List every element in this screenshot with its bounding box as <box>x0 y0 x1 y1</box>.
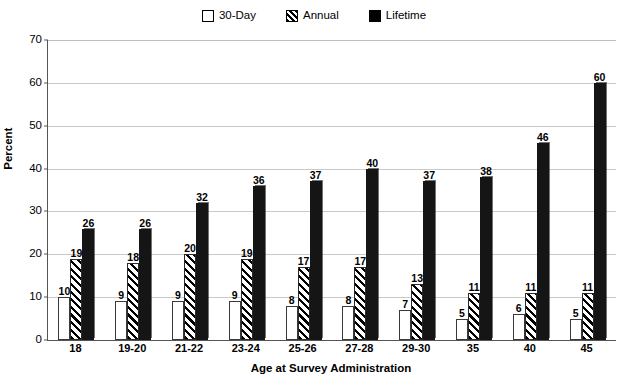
bar-annual-18[interactable]: 19 <box>70 259 82 340</box>
bar-slot: 9 <box>115 40 127 340</box>
bar-annual-19-20[interactable]: 18 <box>127 263 139 340</box>
bar-annual-29-30[interactable]: 13 <box>411 284 423 340</box>
bar-lifetime-23-24[interactable]: 36 <box>253 186 265 340</box>
bar-slot: 9 <box>172 40 184 340</box>
bar-30-day-23-24[interactable]: 9 <box>229 301 241 340</box>
bar-value-label: 11 <box>468 282 479 293</box>
legend-swatch-30-day-icon <box>202 10 214 22</box>
bar-slot: 37 <box>423 40 435 340</box>
bar-slot: 13 <box>411 40 423 340</box>
bar-slot: 18 <box>127 40 139 340</box>
bar-value-label: 13 <box>411 273 423 284</box>
bar-lifetime-35[interactable]: 38 <box>480 177 492 340</box>
bar-annual-27-28[interactable]: 17 <box>354 267 366 340</box>
legend-swatch-annual-icon <box>286 10 298 22</box>
bar-slot: 11 <box>582 40 594 340</box>
x-axis-tick-29-30: 29-30 <box>388 343 445 354</box>
bar-slot: 26 <box>139 40 151 340</box>
bar-slot: 26 <box>82 40 94 340</box>
bar-value-label: 19 <box>71 248 83 259</box>
legend-item-30-day: 30-Day <box>202 10 256 22</box>
legend-item-lifetime: Lifetime <box>369 10 426 22</box>
bar-slot: 5 <box>570 40 582 340</box>
bar-value-label: 37 <box>310 170 322 181</box>
bar-group-19-20: 91826 <box>105 40 162 340</box>
bar-value-label: 8 <box>289 295 295 306</box>
bar-value-label: 5 <box>573 308 579 319</box>
bar-value-label: 36 <box>253 175 265 186</box>
bar-group-27-28: 81740 <box>332 40 389 340</box>
bar-30-day-45[interactable]: 5 <box>570 319 582 340</box>
bar-value-label: 7 <box>402 299 408 310</box>
bar-value-label: 6 <box>516 303 522 314</box>
bar-value-label: 40 <box>367 158 379 169</box>
bar-annual-40[interactable]: 11 <box>525 293 537 340</box>
bar-value-label: 37 <box>423 170 435 181</box>
bar-slot: 40 <box>366 40 378 340</box>
legend-swatch-lifetime-icon <box>369 10 381 22</box>
bar-value-label: 46 <box>537 132 549 143</box>
x-axis-tick-27-28: 27-28 <box>331 343 388 354</box>
bar-slot: 37 <box>310 40 322 340</box>
x-axis-tick-23-24: 23-24 <box>217 343 274 354</box>
chart-legend: 30-Day Annual Lifetime <box>0 5 628 27</box>
bar-30-day-40[interactable]: 6 <box>513 314 525 340</box>
bar-30-day-29-30[interactable]: 7 <box>399 310 411 340</box>
bar-value-label: 60 <box>594 72 606 83</box>
x-axis-tick-45: 45 <box>558 343 615 354</box>
bar-slot: 11 <box>525 40 537 340</box>
bar-30-day-27-28[interactable]: 8 <box>342 306 354 340</box>
bar-value-label: 19 <box>241 248 253 259</box>
bar-lifetime-21-22[interactable]: 32 <box>196 203 208 340</box>
bar-value-label: 26 <box>83 218 95 229</box>
bar-value-label: 9 <box>118 290 124 301</box>
bar-value-label: 9 <box>175 290 181 301</box>
bar-slot: 60 <box>594 40 606 340</box>
bar-lifetime-25-26[interactable]: 37 <box>310 181 322 340</box>
bar-annual-23-24[interactable]: 19 <box>241 259 253 340</box>
bar-slot: 8 <box>342 40 354 340</box>
x-axis-tick-40: 40 <box>501 343 558 354</box>
legend-label-30-day: 30-Day <box>219 10 256 22</box>
x-axis-tick-18: 18 <box>47 343 104 354</box>
bar-slot: 7 <box>399 40 411 340</box>
bar-group-25-26: 81737 <box>275 40 332 340</box>
bar-30-day-18[interactable]: 10 <box>58 297 70 340</box>
bar-slot: 5 <box>456 40 468 340</box>
bar-slot: 19 <box>241 40 253 340</box>
bar-annual-25-26[interactable]: 17 <box>298 267 310 340</box>
bar-lifetime-45[interactable]: 60 <box>594 83 606 340</box>
bar-slot: 17 <box>354 40 366 340</box>
bar-30-day-21-22[interactable]: 9 <box>172 301 184 340</box>
bar-30-day-35[interactable]: 5 <box>456 319 468 340</box>
bar-value-label: 20 <box>184 243 196 254</box>
bar-value-label: 17 <box>298 256 310 267</box>
bar-annual-21-22[interactable]: 20 <box>184 254 196 340</box>
bar-value-label: 26 <box>139 218 151 229</box>
bar-slot: 17 <box>298 40 310 340</box>
bar-lifetime-27-28[interactable]: 40 <box>366 169 378 340</box>
y-axis-title: Percent <box>3 152 15 170</box>
bar-lifetime-29-30[interactable]: 37 <box>423 181 435 340</box>
x-axis-tick-21-22: 21-22 <box>161 343 218 354</box>
bar-slot: 19 <box>70 40 82 340</box>
bar-value-label: 5 <box>459 308 465 319</box>
bar-slot: 36 <box>253 40 265 340</box>
bar-group-29-30: 71337 <box>389 40 446 340</box>
bar-annual-45[interactable]: 11 <box>582 293 594 340</box>
bar-30-day-25-26[interactable]: 8 <box>286 306 298 340</box>
bar-slot: 46 <box>537 40 549 340</box>
bar-group-23-24: 91936 <box>218 40 275 340</box>
bar-annual-35[interactable]: 11 <box>468 293 480 340</box>
bar-group-21-22: 92032 <box>162 40 219 340</box>
x-axis-tick-25-26: 25-26 <box>274 343 331 354</box>
bar-lifetime-19-20[interactable]: 26 <box>139 229 151 340</box>
legend-label-lifetime: Lifetime <box>386 10 426 22</box>
bar-lifetime-18[interactable]: 26 <box>82 229 94 340</box>
bar-30-day-19-20[interactable]: 9 <box>115 301 127 340</box>
bar-group-45: 51160 <box>559 40 616 340</box>
x-axis-tick-labels: 1819-2021-2223-2425-2627-2829-30354045 <box>47 343 615 354</box>
x-axis-tick-35: 35 <box>445 343 502 354</box>
bar-lifetime-40[interactable]: 46 <box>537 143 549 340</box>
bar-groups: 1019269182692032919368173781740713375113… <box>48 40 616 340</box>
